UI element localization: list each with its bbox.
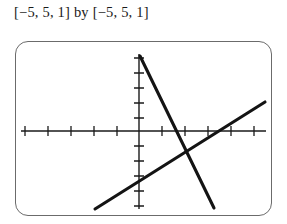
increasing-line-series	[95, 102, 265, 209]
window-settings-caption: [−5, 5, 1] by [−5, 5, 1]	[14, 4, 149, 21]
figure-root: [−5, 5, 1] by [−5, 5, 1]	[0, 0, 287, 224]
decreasing-line-series	[140, 56, 214, 208]
coordinate-plane	[16, 42, 271, 215]
graphing-calculator-screen	[15, 41, 272, 216]
